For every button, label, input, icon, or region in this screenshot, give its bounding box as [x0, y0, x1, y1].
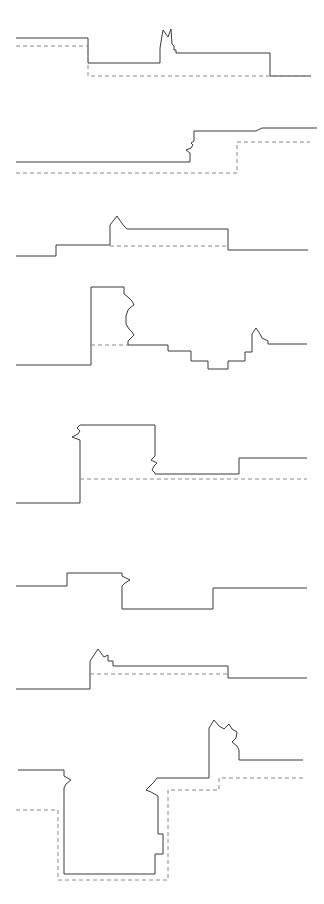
step-profile-chart-stack — [0, 0, 324, 904]
panel-8-canvas — [0, 704, 324, 904]
solid-trace-3 — [16, 216, 308, 256]
panel-7-canvas — [0, 628, 324, 703]
panel-5 — [0, 406, 324, 506]
panel-6 — [0, 548, 324, 623]
solid-trace-1 — [16, 29, 311, 76]
panel-1 — [0, 0, 324, 104]
panel-3 — [0, 198, 324, 268]
panel-6-canvas — [0, 548, 324, 623]
dashed-reference-8 — [16, 778, 305, 880]
solid-trace-2 — [16, 128, 317, 162]
solid-trace-5 — [16, 425, 307, 503]
panel-7 — [0, 628, 324, 703]
solid-trace-6 — [16, 573, 307, 609]
panel-4-canvas — [0, 272, 324, 382]
panel-1-canvas — [0, 0, 324, 104]
panel-2-canvas — [0, 110, 324, 195]
panel-3-canvas — [0, 198, 324, 268]
dashed-reference-2 — [16, 142, 310, 173]
panel-2 — [0, 110, 324, 195]
solid-trace-8 — [18, 720, 303, 874]
solid-trace-7 — [16, 649, 307, 689]
panel-5-canvas — [0, 406, 324, 506]
solid-trace-4 — [16, 287, 307, 369]
panel-4 — [0, 272, 324, 382]
panel-8 — [0, 704, 324, 904]
